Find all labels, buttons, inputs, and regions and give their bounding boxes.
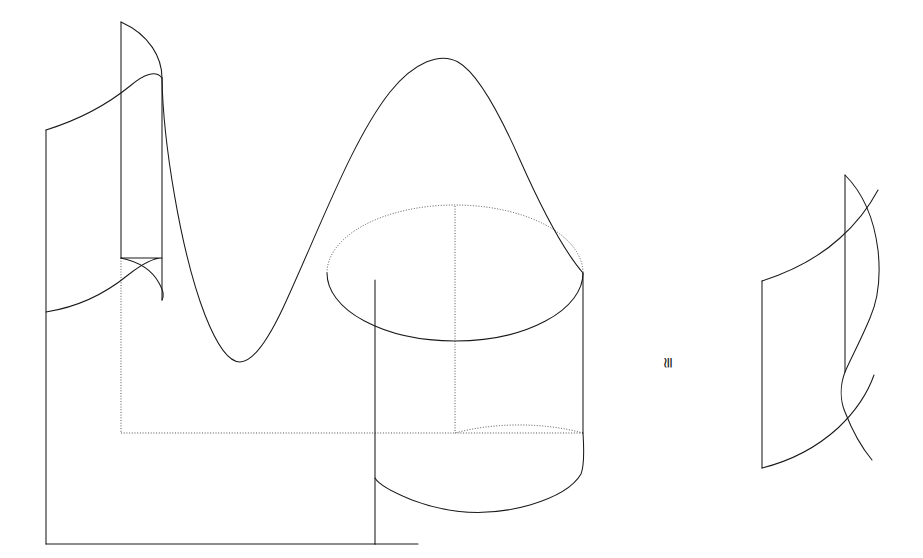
- fibre-ribbon-surface: [762, 175, 879, 468]
- congruence-symbol: ≅: [661, 356, 676, 369]
- ribbon-lower-curve: [762, 375, 874, 468]
- ribbon-upper-curve: [762, 190, 878, 281]
- ribbon-right-silhouette: [841, 175, 879, 460]
- flap-bottom-curve: [46, 258, 162, 312]
- back-cut-curve-lower: [121, 258, 163, 300]
- back-cut-curve-upper: [46, 74, 162, 130]
- figure-vector-graphic: [0, 0, 923, 558]
- sinusoidal-top-boundary: [121, 22, 583, 362]
- bottom-base-ellipse-near-arc: [375, 433, 584, 512]
- bottom-base-ellipse-far-arc-curve: [455, 425, 583, 433]
- figure-canvas: ≅: [0, 0, 923, 558]
- wavy-cut-cylinder: [46, 22, 584, 544]
